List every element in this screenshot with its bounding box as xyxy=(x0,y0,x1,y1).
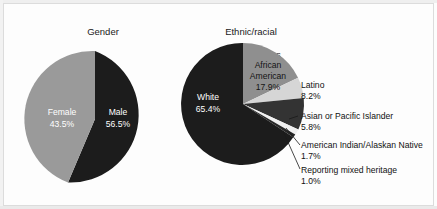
callout-asian-pacific-islander-label: Asian or Pacific Islander xyxy=(301,111,393,122)
pie-slice-male-label: Male xyxy=(109,107,128,117)
callout-latino-label: Latino xyxy=(301,80,324,91)
chart-demographics-pie: African American 17.9% White 65.4% xyxy=(180,41,306,167)
pie-slice-african-american-label-line2: American xyxy=(250,71,287,81)
callout-american-indian-alaskan-native-label: American Indian/Alaskan Native xyxy=(301,140,423,151)
pie-slice-white-label: White xyxy=(197,92,219,102)
callout-latino: Latino 8.2% xyxy=(301,80,324,101)
chart-demographics-title-line1: Ethnic/racial xyxy=(225,26,277,37)
chart-gender-title: Gender xyxy=(48,26,158,38)
pie-slice-white-value: 65.4% xyxy=(196,104,221,114)
figure-two-pie-charts: Gender Male 56.5% Female 43.5% Ethnic/ra… xyxy=(0,0,437,209)
callout-reporting-mixed-heritage-label: Reporting mixed heritage xyxy=(301,165,397,176)
callout-reporting-mixed-heritage: Reporting mixed heritage 1.0% xyxy=(301,165,397,186)
pie-slice-female-value: 43.5% xyxy=(50,119,75,129)
pie-slice-female-label: Female xyxy=(48,107,77,117)
pie-slice-african-american-label-line1: African xyxy=(255,60,282,70)
chart-gender: Gender Male 56.5% Female 43.5% xyxy=(0,0,190,209)
callout-latino-value: 8.2% xyxy=(301,91,324,102)
callout-asian-pacific-islander: Asian or Pacific Islander 5.8% xyxy=(301,111,393,132)
chart-gender-pie: Male 56.5% Female 43.5% xyxy=(25,49,165,189)
pie-slice-male-value: 56.5% xyxy=(106,119,131,129)
callout-american-indian-alaskan-native-value: 1.7% xyxy=(301,151,423,162)
chart-ethnic-racial-demographics: Ethnic/racial demographics African Ameri… xyxy=(178,0,437,209)
pie-slice-african-american-value: 17.9% xyxy=(256,82,281,92)
callout-asian-pacific-islander-value: 5.8% xyxy=(301,122,393,133)
callout-american-indian-alaskan-native: American Indian/Alaskan Native 1.7% xyxy=(301,140,423,161)
callout-reporting-mixed-heritage-value: 1.0% xyxy=(301,176,397,187)
